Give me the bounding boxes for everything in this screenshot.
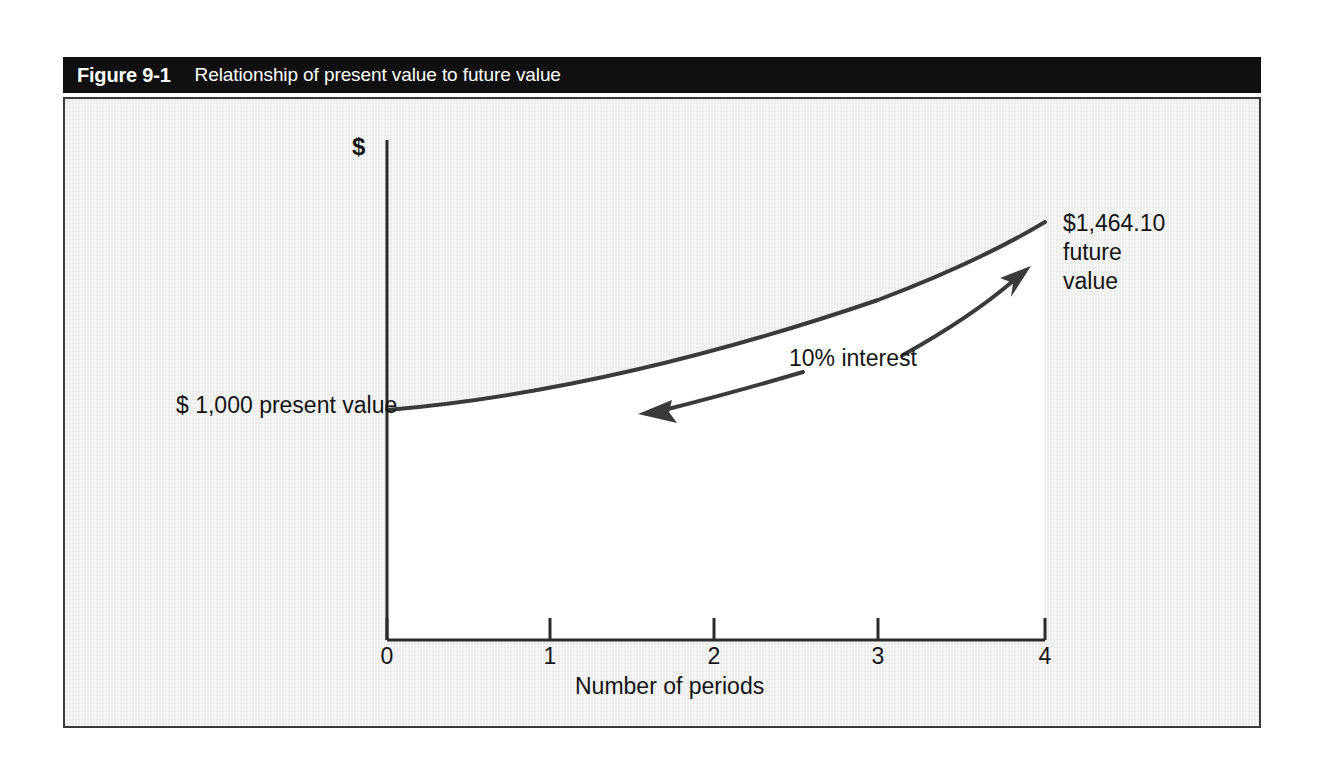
- x-tick-label-1: 1: [544, 643, 557, 670]
- x-tick-label-2: 2: [708, 643, 721, 670]
- present-value-label: $ 1,000 present value: [176, 392, 397, 419]
- future-value-label: $1,464.10 future value: [1063, 209, 1213, 296]
- interest-rate-label: 10% interest: [789, 345, 917, 372]
- x-axis-title: Number of periods: [575, 673, 764, 700]
- future-value-amount: $1,464.10: [1063, 209, 1213, 238]
- plot-fill-area: [387, 222, 1045, 640]
- x-tick-label-0: 0: [381, 643, 394, 670]
- figure-root: Figure 9-1 Relationship of present value…: [0, 0, 1317, 784]
- x-tick-label-3: 3: [872, 643, 885, 670]
- future-value-word-future: future: [1063, 238, 1213, 267]
- x-tick-label-4: 4: [1039, 643, 1052, 670]
- y-axis-label: $: [352, 133, 365, 161]
- future-value-word-value: value: [1063, 267, 1213, 296]
